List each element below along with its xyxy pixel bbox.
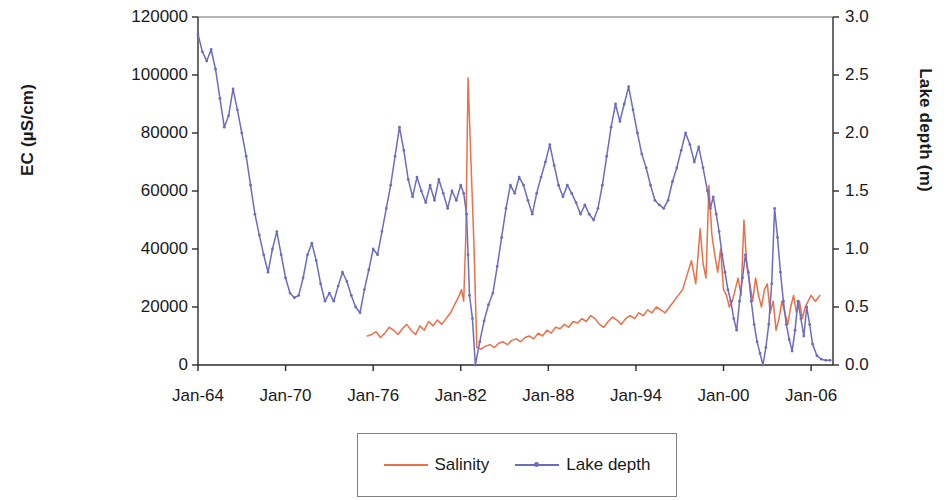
plot-area — [0, 0, 948, 500]
x-tick-label: Jan-94 — [610, 386, 662, 406]
legend-item: Salinity — [384, 455, 490, 475]
right-tick-label: 0.0 — [845, 355, 869, 375]
legend-item: Lake depth — [515, 455, 650, 475]
chart-legend: SalinityLake depth — [357, 433, 677, 497]
x-tick-label: Jan-00 — [698, 386, 750, 406]
x-axis-tick-labels: Jan-64Jan-70Jan-76Jan-82Jan-88Jan-94Jan-… — [0, 386, 948, 412]
x-tick-label: Jan-88 — [522, 386, 574, 406]
right-tick-label: 3.0 — [845, 7, 869, 27]
right-tick-label: 1.0 — [845, 239, 869, 259]
legend-swatch-icon — [384, 459, 428, 471]
right-tick-label: 2.0 — [845, 123, 869, 143]
legend-label: Lake depth — [566, 455, 650, 475]
x-tick-label: Jan-06 — [785, 386, 837, 406]
chart-figure: EC (µS/cm) 02000040000600008000010000012… — [0, 0, 948, 500]
legend-swatch-icon — [515, 459, 559, 471]
legend-label: Salinity — [435, 455, 490, 475]
right-tick-label: 0.5 — [845, 297, 869, 317]
right-axis-title: Lake depth (m) — [915, 40, 935, 220]
x-tick-label: Jan-76 — [347, 386, 399, 406]
series-markers-lake-depth — [197, 33, 832, 366]
x-tick-label: Jan-64 — [172, 386, 224, 406]
x-tick-label: Jan-70 — [260, 386, 312, 406]
x-tick-label: Jan-82 — [435, 386, 487, 406]
right-tick-label: 2.5 — [845, 65, 869, 85]
series-line-lake-depth — [198, 34, 830, 365]
right-tick-label: 1.5 — [845, 181, 869, 201]
